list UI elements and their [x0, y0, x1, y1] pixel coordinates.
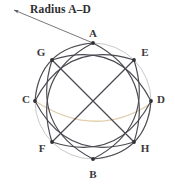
vertex-label-b: B: [86, 169, 100, 180]
vertex-dot-f: [50, 140, 54, 144]
radius-leader-line: [14, 10, 93, 43]
vertex-label-d: D: [154, 94, 168, 105]
vertex-dot-e: [132, 58, 136, 62]
vertex-label-e: E: [138, 47, 152, 58]
vertex-dot-h: [132, 140, 136, 144]
vertex-label-c: C: [19, 94, 33, 105]
vertex-label-h: H: [138, 143, 152, 154]
vertex-dot-g: [50, 58, 54, 62]
vertex-dot-c: [33, 99, 37, 103]
figure-canvas: Radius A–D AEDHBFCG: [0, 0, 175, 187]
vertex-label-a: A: [86, 28, 100, 39]
vertex-label-g: G: [34, 47, 48, 58]
vertex-dot-a: [91, 41, 95, 45]
vertex-label-f: F: [35, 143, 49, 154]
vertex-dot-d: [149, 99, 153, 103]
vertex-dot-b: [91, 157, 95, 161]
